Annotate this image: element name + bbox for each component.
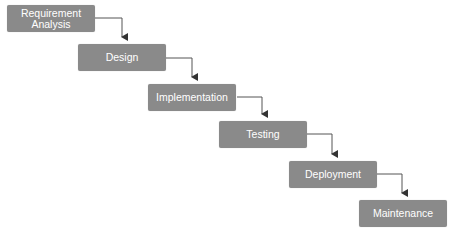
connectors <box>0 0 453 232</box>
stage-deployment: Deployment <box>289 161 377 188</box>
stage-testing: Testing <box>219 121 307 148</box>
connector-deployment-to-maintenance <box>377 174 402 193</box>
connector-requirement-to-design <box>95 18 122 37</box>
connector-testing-to-deployment <box>307 134 332 154</box>
connector-implementation-to-testing <box>237 97 262 114</box>
stage-implementation: Implementation <box>148 84 236 111</box>
connector-design-to-implementation <box>166 58 192 77</box>
stage-design: Design <box>78 44 166 71</box>
waterfall-diagram: Requirement Analysis Design Implementati… <box>0 0 453 232</box>
stage-requirement-analysis: Requirement Analysis <box>7 5 95 32</box>
stage-maintenance: Maintenance <box>359 200 447 227</box>
